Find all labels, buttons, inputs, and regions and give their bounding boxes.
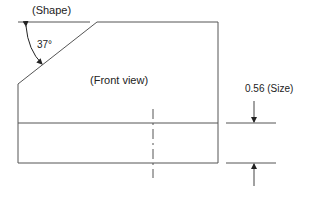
view-label: (Front view) [90, 74, 148, 86]
front-view-drawing: (Shape) 37° (Front view) 0.56 (Size) [0, 0, 309, 197]
angle-label: 37° [37, 39, 52, 50]
shape-label: (Shape) [32, 4, 71, 16]
size-label: 0.56 (Size) [245, 83, 293, 94]
